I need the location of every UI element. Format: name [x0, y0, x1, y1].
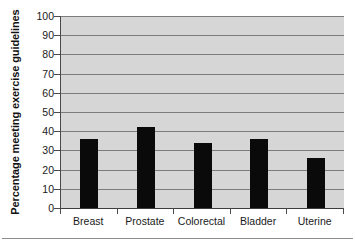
footer-divider — [2, 238, 353, 239]
y-axis-tick-label: 30 — [28, 144, 54, 156]
x-axis-tick — [173, 208, 174, 214]
x-axis-tick — [286, 208, 287, 214]
y-axis-tick-label: 100 — [28, 10, 54, 22]
bar-chart-figure: Percentage meeting exercise guidelines 0… — [0, 0, 355, 248]
y-axis-tick-label: 60 — [28, 87, 54, 99]
gridline — [61, 131, 344, 132]
bar-colorectal[interactable] — [194, 143, 212, 208]
x-axis-tick — [60, 208, 61, 214]
plot-inner — [61, 16, 344, 208]
x-axis-label-uterine: Uterine — [298, 215, 332, 227]
x-axis-label-colorectal: Colorectal — [178, 215, 225, 227]
gridline — [61, 35, 344, 36]
bar-uterine[interactable] — [307, 158, 325, 208]
gridline — [61, 74, 344, 75]
x-axis-label-breast: Breast — [73, 215, 103, 227]
y-axis-tick-label: 10 — [28, 183, 54, 195]
y-axis-tick-label: 70 — [28, 68, 54, 80]
y-axis-tick-label: 20 — [28, 164, 54, 176]
plot-area — [60, 16, 344, 208]
y-axis-tick-label: 50 — [28, 106, 54, 118]
x-axis-line — [60, 208, 344, 209]
y-axis-tick-label: 40 — [28, 125, 54, 137]
y-axis-tick-labels: 0102030405060708090100 — [26, 16, 54, 208]
bar-bladder[interactable] — [250, 139, 268, 208]
y-axis-tick-label: 80 — [28, 48, 54, 60]
gridline — [61, 93, 344, 94]
x-axis-label-bladder: Bladder — [240, 215, 276, 227]
bar-breast[interactable] — [80, 139, 98, 208]
y-axis-tick-label: 0 — [28, 202, 54, 214]
gridline — [61, 54, 344, 55]
x-axis-tick — [230, 208, 231, 214]
x-axis-label-prostate: Prostate — [125, 215, 164, 227]
bar-prostate[interactable] — [137, 127, 155, 208]
gridline — [61, 112, 344, 113]
gridline — [61, 16, 344, 17]
y-axis-title: Percentage meeting exercise guidelines — [4, 6, 26, 218]
x-axis-tick — [117, 208, 118, 214]
x-axis-tick — [343, 208, 344, 214]
y-axis-tick-label: 90 — [28, 29, 54, 41]
